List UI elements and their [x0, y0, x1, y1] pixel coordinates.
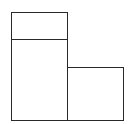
top-left-header-box	[11, 12, 68, 40]
right-lower-box	[67, 67, 124, 121]
left-tall-box	[11, 39, 68, 121]
diagram-canvas	[0, 0, 133, 124]
